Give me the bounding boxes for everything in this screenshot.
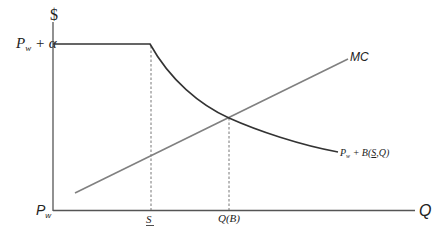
y-axis-label: $ xyxy=(50,6,58,23)
tick-s: S xyxy=(146,213,152,225)
tick-q-of-b: Q(B) xyxy=(218,212,240,225)
tick-pw: Pw xyxy=(36,202,52,220)
mc-curve xyxy=(75,59,348,193)
mc-label: MC xyxy=(350,50,369,64)
diagram: $ Pw + α Pw Q S Q(B) MC Pw + B(S,Q) xyxy=(0,0,447,236)
price-curve-label: Pw + B(S,Q) xyxy=(339,147,390,159)
x-axis-label: Q xyxy=(419,202,431,219)
tick-pw-plus-alpha: Pw + α xyxy=(15,35,58,53)
price-curve xyxy=(53,44,338,152)
